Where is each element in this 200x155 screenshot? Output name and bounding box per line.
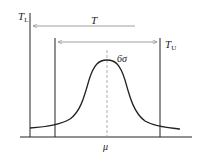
- normal-curve: [30, 60, 180, 129]
- upper-tolerance-label: TU: [165, 38, 176, 52]
- lower-tolerance-label: TL: [18, 10, 28, 24]
- tolerance-label: T: [91, 14, 98, 26]
- capability-diagram: TL T TU 6σ μ: [0, 0, 200, 155]
- mean-label: μ: [102, 141, 108, 152]
- six-sigma-label: 6σ: [117, 53, 128, 64]
